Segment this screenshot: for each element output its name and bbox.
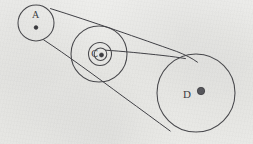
pulley-diagram-canvas: A C D: [0, 0, 253, 144]
pulley-diagram-svg: A C D: [0, 0, 253, 144]
pulley-c-label: C: [91, 48, 98, 59]
pulley-d-label: D: [183, 88, 191, 100]
pulley-c: C: [71, 26, 127, 82]
belt-group: [44, 9, 198, 131]
pulley-c-rim: [71, 26, 127, 82]
pulley-d-rim: [157, 54, 235, 132]
pulley-a-hub-dot: [34, 26, 38, 30]
upper-belt-a-to-d: [51, 9, 198, 63]
pulley-c-hub-dot: [99, 53, 103, 57]
pulley-a: A: [18, 5, 54, 41]
pulley-a-label: A: [32, 9, 40, 20]
pulley-d: D: [157, 54, 235, 132]
pulley-d-hub-dot: [197, 87, 204, 94]
belt-c-hub-to-d: [106, 50, 186, 58]
